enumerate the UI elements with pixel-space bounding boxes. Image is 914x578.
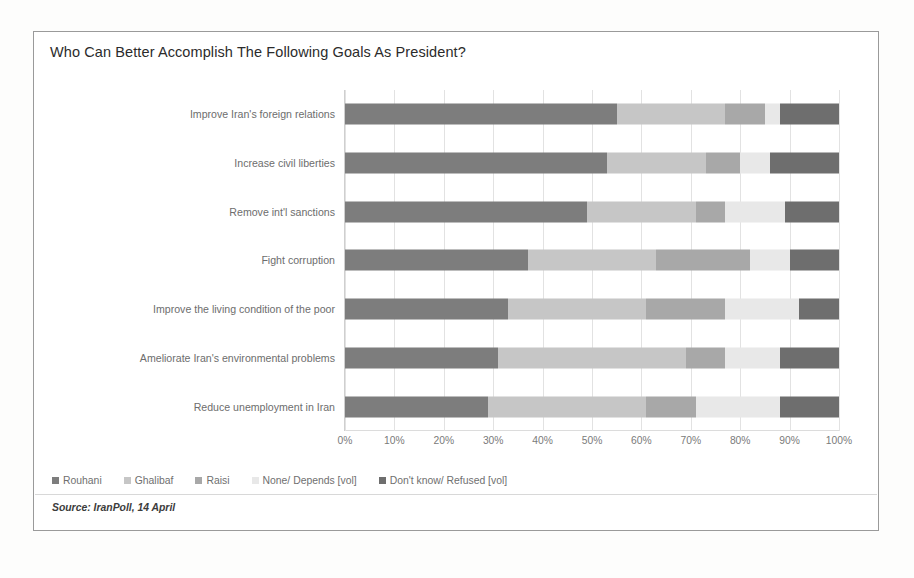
bar-segment[interactable] (780, 104, 839, 125)
x-axis-tick-labels: 0%10%20%30%40%50%60%70%80%90%100% (345, 431, 839, 451)
legend-item[interactable]: Ghalibaf (124, 475, 174, 486)
bar-segment[interactable] (345, 104, 617, 125)
legend-label: None/ Depends [vol] (263, 475, 357, 486)
bar-segment[interactable] (528, 250, 656, 271)
bar-segment[interactable] (706, 153, 741, 174)
bar-segment[interactable] (770, 153, 839, 174)
square-swatch-icon (252, 477, 259, 484)
bar-segment[interactable] (345, 299, 508, 320)
legend-item[interactable]: Raisi (195, 475, 229, 486)
bar-segment[interactable] (607, 153, 706, 174)
chart-row: Fight corruption (345, 236, 839, 285)
category-label: Fight corruption (0, 254, 335, 266)
x-tick-label: 20% (433, 435, 454, 446)
x-tick-label: 70% (680, 435, 701, 446)
bar-segment[interactable] (686, 347, 726, 368)
square-swatch-icon (52, 477, 59, 484)
bar-segment[interactable] (780, 396, 839, 417)
category-label: Improve the living condition of the poor (0, 303, 335, 315)
bar-segment[interactable] (740, 153, 770, 174)
bar-segment[interactable] (508, 299, 646, 320)
plot-area: Improve Iran's foreign relationsIncrease… (345, 90, 839, 431)
bar-segment[interactable] (646, 299, 725, 320)
stacked-bar[interactable] (345, 250, 839, 271)
legend-item[interactable]: Rouhani (52, 475, 102, 486)
chart-row: Improve the living condition of the poor (345, 285, 839, 334)
bar-segment[interactable] (725, 104, 765, 125)
bar-segment[interactable] (790, 250, 839, 271)
bar-segment[interactable] (345, 396, 488, 417)
legend-item[interactable]: Don't know/ Refused [vol] (379, 475, 508, 486)
x-tick-label: 40% (532, 435, 553, 446)
chart-legend: RouhaniGhalibafRaisiNone/ Depends [vol]D… (52, 475, 507, 486)
bar-segment[interactable] (617, 104, 726, 125)
square-swatch-icon (379, 477, 386, 484)
stacked-bar[interactable] (345, 396, 839, 417)
category-label: Ameliorate Iran's environmental problems (0, 352, 335, 364)
category-label: Increase civil liberties (0, 157, 335, 169)
stacked-bar[interactable] (345, 201, 839, 222)
gridline (839, 90, 840, 431)
bar-segment[interactable] (345, 347, 498, 368)
x-tick-label: 60% (631, 435, 652, 446)
bar-segment[interactable] (587, 201, 696, 222)
bar-segment[interactable] (646, 396, 695, 417)
bar-segment[interactable] (345, 201, 587, 222)
stacked-bar[interactable] (345, 299, 839, 320)
chart-row: Ameliorate Iran's environmental problems (345, 334, 839, 383)
source-divider (35, 494, 877, 495)
bar-segment[interactable] (725, 201, 784, 222)
chart-row: Reduce unemployment in Iran (345, 382, 839, 431)
category-label: Remove int'l sanctions (0, 206, 335, 218)
legend-label: Don't know/ Refused [vol] (390, 475, 508, 486)
stacked-bar[interactable] (345, 153, 839, 174)
x-tick-label: 90% (779, 435, 800, 446)
legend-label: Raisi (206, 475, 229, 486)
bar-segment[interactable] (696, 396, 780, 417)
source-note: Source: IranPoll, 14 April (52, 502, 175, 513)
chart-row: Remove int'l sanctions (345, 187, 839, 236)
stacked-bar[interactable] (345, 104, 839, 125)
chart-container: Who Can Better Accomplish The Following … (33, 31, 879, 531)
bar-segment[interactable] (765, 104, 780, 125)
category-label: Reduce unemployment in Iran (0, 401, 335, 413)
bar-segment[interactable] (750, 250, 790, 271)
bar-segment[interactable] (696, 201, 726, 222)
bar-segment[interactable] (656, 250, 750, 271)
x-tick-label: 10% (384, 435, 405, 446)
x-tick-label: 30% (483, 435, 504, 446)
stacked-bar[interactable] (345, 347, 839, 368)
legend-label: Ghalibaf (135, 475, 174, 486)
legend-label: Rouhani (63, 475, 102, 486)
bar-segment[interactable] (785, 201, 839, 222)
bar-segment[interactable] (488, 396, 646, 417)
bar-segment[interactable] (345, 250, 528, 271)
x-tick-label: 80% (730, 435, 751, 446)
bar-segment[interactable] (799, 299, 839, 320)
bar-segment[interactable] (345, 153, 607, 174)
chart-row: Increase civil liberties (345, 139, 839, 188)
x-tick-label: 0% (338, 435, 353, 446)
legend-item[interactable]: None/ Depends [vol] (252, 475, 357, 486)
x-tick-label: 50% (582, 435, 603, 446)
category-label: Improve Iran's foreign relations (0, 108, 335, 120)
bar-segment[interactable] (725, 299, 799, 320)
plot-wrapper: Improve Iran's foreign relationsIncrease… (34, 32, 880, 532)
square-swatch-icon (124, 477, 131, 484)
chart-row: Improve Iran's foreign relations (345, 90, 839, 139)
bar-segment[interactable] (498, 347, 686, 368)
x-tick-label: 100% (826, 435, 852, 446)
bar-segment[interactable] (725, 347, 779, 368)
bar-segment[interactable] (780, 347, 839, 368)
square-swatch-icon (195, 477, 202, 484)
